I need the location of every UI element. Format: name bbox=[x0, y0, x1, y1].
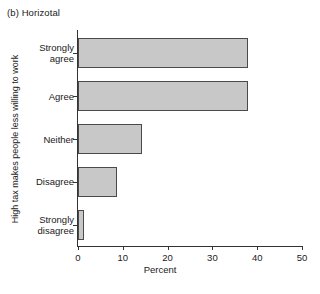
bar bbox=[78, 81, 248, 111]
y-axis-tick-label: Disagree bbox=[22, 176, 74, 187]
x-axis-spine bbox=[77, 246, 303, 247]
y-axis-tick bbox=[73, 53, 78, 54]
bar bbox=[78, 38, 248, 68]
x-axis-tick-label: 20 bbox=[153, 252, 183, 263]
x-axis-tick bbox=[168, 246, 169, 250]
x-axis-tick bbox=[257, 246, 258, 250]
y-axis-tick bbox=[73, 139, 78, 140]
x-axis-tick bbox=[78, 246, 79, 250]
x-axis-tick-label: 10 bbox=[108, 252, 138, 263]
x-axis-tick-label: 40 bbox=[242, 252, 272, 263]
y-axis-tick-label: Agree bbox=[22, 91, 74, 102]
y-axis-title: High tax makes people less willing to wo… bbox=[8, 32, 22, 246]
x-axis-tick bbox=[123, 246, 124, 250]
bar bbox=[78, 124, 142, 154]
y-axis-tick-label: Strongly disagree bbox=[22, 214, 74, 236]
bar bbox=[78, 167, 117, 197]
bar bbox=[78, 210, 84, 240]
panel-title: (b) Horizotal bbox=[7, 7, 60, 18]
x-axis-title: Percent bbox=[0, 264, 320, 275]
y-axis-tick-label: Neither bbox=[22, 134, 74, 145]
plot-area: 01020304050 bbox=[78, 32, 302, 246]
y-axis-tick bbox=[73, 96, 78, 97]
y-axis-title-text: High tax makes people less willing to wo… bbox=[10, 55, 20, 224]
y-axis-tick-label: Strongly agree bbox=[22, 42, 74, 64]
x-axis-tick-label: 50 bbox=[287, 252, 317, 263]
x-axis-tick-label: 30 bbox=[197, 252, 227, 263]
x-axis-tick bbox=[212, 246, 213, 250]
x-axis-tick-label: 0 bbox=[63, 252, 93, 263]
y-axis-tick bbox=[73, 182, 78, 183]
chart-figure: (b) Horizotal High tax makes people less… bbox=[0, 0, 320, 294]
y-axis-tick bbox=[73, 225, 78, 226]
y-axis-tick-labels: Strongly agreeAgreeNeitherDisagreeStrong… bbox=[22, 32, 74, 246]
x-axis-tick bbox=[302, 246, 303, 250]
